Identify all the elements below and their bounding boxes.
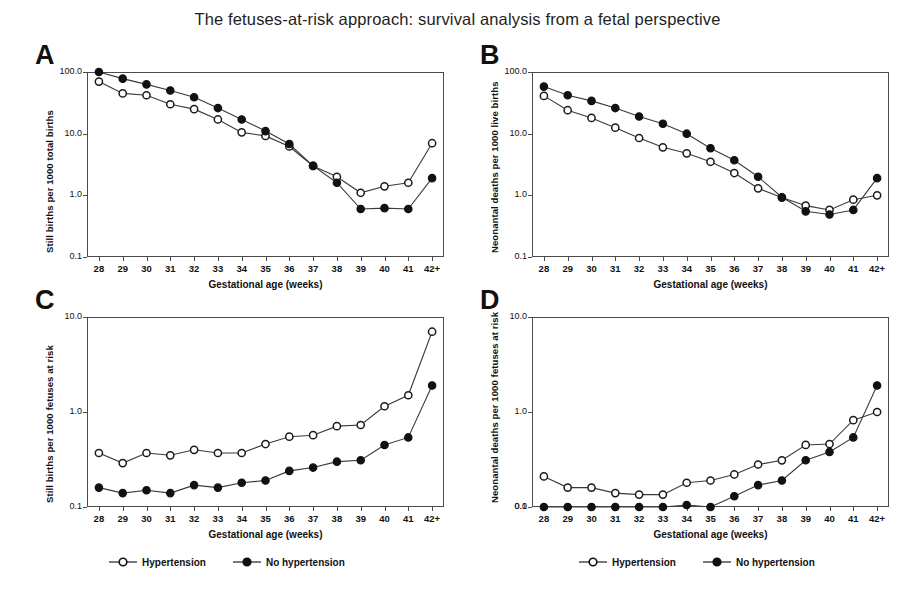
data-point-no-hypertension	[612, 503, 619, 510]
data-point-hypertension	[564, 107, 571, 114]
legend-open-circle-icon	[578, 556, 608, 568]
series-layer	[475, 285, 905, 545]
data-point-no-hypertension	[707, 503, 714, 510]
data-point-no-hypertension	[95, 484, 102, 491]
legend-filled-circle-icon	[232, 556, 262, 568]
data-point-no-hypertension	[635, 113, 642, 120]
data-point-hypertension	[429, 328, 436, 335]
data-point-hypertension	[381, 183, 388, 190]
data-point-hypertension	[731, 471, 738, 478]
data-point-no-hypertension	[754, 481, 761, 488]
data-point-hypertension	[612, 490, 619, 497]
data-point-hypertension	[588, 484, 595, 491]
data-point-hypertension	[588, 114, 595, 121]
data-point-no-hypertension	[588, 503, 595, 510]
data-point-no-hypertension	[405, 205, 412, 212]
data-point-hypertension	[429, 140, 436, 147]
data-point-hypertension	[707, 158, 714, 165]
data-point-hypertension	[262, 440, 269, 447]
legend-label-hypertension: Hypertension	[612, 557, 676, 568]
data-point-hypertension	[683, 150, 690, 157]
data-point-hypertension	[683, 479, 690, 486]
figure-title: The fetuses-at-risk approach: survival a…	[0, 10, 915, 29]
data-point-no-hypertension	[707, 145, 714, 152]
data-point-hypertension	[707, 477, 714, 484]
data-point-no-hypertension	[119, 75, 126, 82]
data-point-hypertension	[850, 417, 857, 424]
data-point-hypertension	[310, 432, 317, 439]
data-point-hypertension	[850, 196, 857, 203]
legend-item-hypertension: Hypertension	[578, 556, 676, 568]
data-point-no-hypertension	[214, 484, 221, 491]
data-point-no-hypertension	[381, 204, 388, 211]
data-point-no-hypertension	[262, 477, 269, 484]
data-point-hypertension	[405, 179, 412, 186]
data-point-hypertension	[731, 169, 738, 176]
data-point-no-hypertension	[564, 92, 571, 99]
data-point-hypertension	[214, 449, 221, 456]
data-point-hypertension	[95, 78, 102, 85]
data-point-no-hypertension	[119, 489, 126, 496]
series-layer	[30, 285, 460, 545]
data-point-hypertension	[540, 473, 547, 480]
data-point-no-hypertension	[540, 503, 547, 510]
data-point-no-hypertension	[143, 487, 150, 494]
data-point-no-hypertension	[873, 382, 880, 389]
data-point-no-hypertension	[850, 434, 857, 441]
data-point-no-hypertension	[754, 173, 761, 180]
data-point-no-hypertension	[659, 120, 666, 127]
data-point-no-hypertension	[683, 501, 690, 508]
data-point-hypertension	[564, 484, 571, 491]
data-point-no-hypertension	[333, 179, 340, 186]
data-point-no-hypertension	[428, 174, 435, 181]
data-point-no-hypertension	[635, 503, 642, 510]
data-point-hypertension	[755, 185, 762, 192]
legend-label-no-hypertension: No hypertension	[266, 557, 345, 568]
data-point-no-hypertension	[333, 458, 340, 465]
legend-item-no-hypertension: No hypertension	[232, 556, 345, 568]
data-point-no-hypertension	[357, 205, 364, 212]
data-point-hypertension	[238, 449, 245, 456]
legend-item-no-hypertension: No hypertension	[702, 556, 815, 568]
data-point-hypertension	[874, 408, 881, 415]
data-point-no-hypertension	[143, 81, 150, 88]
data-point-no-hypertension	[405, 434, 412, 441]
data-point-hypertension	[191, 446, 198, 453]
data-point-no-hypertension	[381, 441, 388, 448]
figure-root: The fetuses-at-risk approach: survival a…	[0, 0, 915, 592]
data-point-no-hypertension	[850, 206, 857, 213]
data-point-no-hypertension	[826, 211, 833, 218]
legend-label-hypertension: Hypertension	[142, 557, 206, 568]
data-point-no-hypertension	[731, 492, 738, 499]
data-point-hypertension	[826, 440, 833, 447]
panel-a: A 100.010.01.00.1Still births per 1000 t…	[30, 42, 460, 292]
data-point-hypertension	[612, 124, 619, 131]
data-point-hypertension	[659, 491, 666, 498]
data-point-no-hypertension	[357, 457, 364, 464]
legend-item-hypertension: Hypertension	[108, 556, 206, 568]
data-point-no-hypertension	[167, 489, 174, 496]
data-point-hypertension	[167, 101, 174, 108]
data-point-no-hypertension	[540, 83, 547, 90]
data-point-no-hypertension	[167, 87, 174, 94]
data-point-no-hypertension	[612, 104, 619, 111]
data-point-hypertension	[636, 491, 643, 498]
panel-d: D 10.01.00.10.0Neonantal deaths per 1000…	[475, 285, 905, 545]
data-point-hypertension	[874, 192, 881, 199]
data-point-no-hypertension	[238, 479, 245, 486]
data-point-hypertension	[802, 441, 809, 448]
panel-c: C 10.01.00.1Still births per 1000 fetuse…	[30, 285, 460, 545]
data-point-hypertension	[636, 134, 643, 141]
data-point-hypertension	[143, 449, 150, 456]
data-point-hypertension	[286, 433, 293, 440]
data-point-no-hypertension	[802, 457, 809, 464]
panel-b: B 100.010.01.00.1Neonantal deaths per 10…	[475, 42, 905, 292]
legend-filled-circle-icon	[702, 556, 732, 568]
data-point-no-hypertension	[190, 94, 197, 101]
legend-left: Hypertension No hypertension	[108, 556, 345, 568]
series-layer	[30, 42, 460, 302]
legend-right: Hypertension No hypertension	[578, 556, 815, 568]
data-point-no-hypertension	[564, 503, 571, 510]
data-point-no-hypertension	[778, 194, 785, 201]
data-point-hypertension	[357, 189, 364, 196]
